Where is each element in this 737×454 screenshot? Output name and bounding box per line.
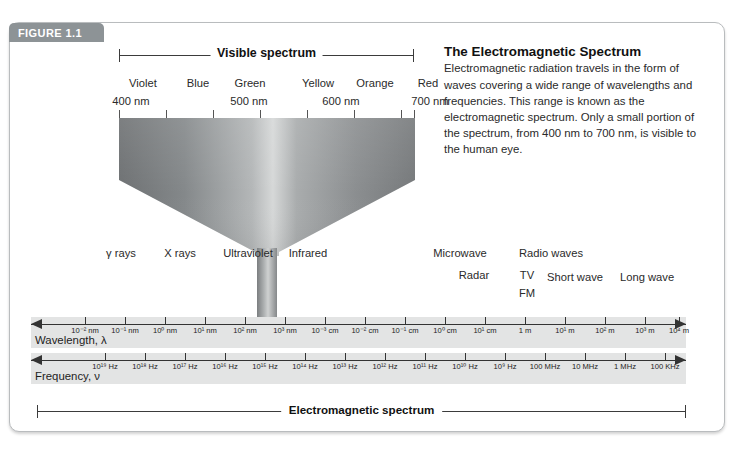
electromagnetic-spectrum-bracket: Electromagnetic spectrum xyxy=(37,404,686,418)
category-label-ultraviolet: Ultraviolet xyxy=(223,247,273,259)
category-label-gamma-rays: γ rays xyxy=(106,247,136,259)
overall-bracket-label: Electromagnetic spectrum xyxy=(281,403,443,416)
visible-spectrum-funnel xyxy=(119,110,415,345)
wavelength-tick-label: 10² m xyxy=(595,326,614,335)
bracket-cap-right xyxy=(413,49,414,62)
wavelength-tick-label: 1 m xyxy=(519,326,532,335)
frequency-tick-label: 100 MHz xyxy=(530,362,560,371)
frequency-tick-label: 10¹⁶ Hz xyxy=(212,362,238,371)
frequency-tick-label: 10¹⁰ Hz xyxy=(452,362,477,371)
funnel-tick xyxy=(401,110,402,118)
wavelength-mark-400nm: 400 nm xyxy=(112,95,149,107)
color-label-orange: Orange xyxy=(356,77,393,89)
frequency-tick-label: 10¹⁷ Hz xyxy=(172,362,197,371)
funnel-tick xyxy=(166,110,167,118)
wavelength-mark-600nm: 600 nm xyxy=(322,95,359,107)
wavelength-tick-label: 10⁻³ cm xyxy=(311,326,338,335)
category-label-infrared: Infrared xyxy=(289,247,328,259)
wavelength-axis: 10⁻² nm 10⁻¹ nm 10⁰ nm 10¹ nm 10² nm 10³… xyxy=(31,317,686,348)
funnel-shape xyxy=(119,118,415,345)
visible-spectrum-label: Visible spectrum xyxy=(210,46,323,60)
overall-bracket-cap-right xyxy=(685,405,686,418)
wavelength-tick-label: 10¹ cm xyxy=(473,326,496,335)
frequency-tick-label: 10¹⁵ Hz xyxy=(252,362,278,371)
category-label-radar: Radar xyxy=(459,269,489,281)
frequency-tick-label: 10⁹ Hz xyxy=(493,362,516,371)
wavelength-mark-700nm: 700 nm xyxy=(411,95,448,107)
frequency-tick-label: 10¹⁸ Hz xyxy=(132,362,158,371)
category-label-long-wave: Long wave xyxy=(620,269,660,285)
color-label-red: Red xyxy=(418,77,439,89)
wavelength-axis-title: Wavelength, λ xyxy=(35,334,107,346)
frequency-axis-title: Frequency, ν xyxy=(35,370,100,382)
category-label-short-wave: Short wave xyxy=(547,269,587,285)
category-label-fm: FM xyxy=(519,287,535,299)
wavelength-tick-label: 10³ nm xyxy=(273,326,297,335)
wavelength-tick-label: 10⁻¹ cm xyxy=(391,326,418,335)
frequency-tick-label: 10¹² Hz xyxy=(373,362,398,371)
frequency-tick-label: 10¹³ Hz xyxy=(333,362,358,371)
frequency-arrow-left-icon xyxy=(31,355,42,365)
visible-spectrum-bracket: Visible spectrum xyxy=(119,49,414,63)
color-label-yellow: Yellow xyxy=(302,77,334,89)
frequency-axis: 10¹⁹ Hz 10¹⁸ Hz 10¹⁷ Hz 10¹⁶ Hz 10¹⁵ Hz … xyxy=(31,353,686,384)
overall-bracket-cap-left xyxy=(37,405,38,418)
wavelength-mark-500nm: 500 nm xyxy=(230,95,267,107)
wavelength-axis-line xyxy=(31,324,686,325)
category-label-microwave: Microwave xyxy=(433,247,486,259)
wavelength-tick-label: 10¹ nm xyxy=(193,326,217,335)
color-label-blue: Blue xyxy=(187,77,209,89)
wavelength-tick-label: 10² nm xyxy=(233,326,257,335)
funnel-tick xyxy=(119,110,120,118)
wavelength-tick-label: 10⁴ m xyxy=(669,326,689,335)
category-label-radio-waves: Radio waves xyxy=(519,247,583,259)
category-label-tv: TV xyxy=(520,269,534,281)
figure-caption: The Electromagnetic Spectrum Electromagn… xyxy=(444,44,706,158)
funnel-tick xyxy=(354,110,355,118)
frequency-tick-label: 1 MHz xyxy=(614,362,636,371)
caption-heading: The Electromagnetic Spectrum xyxy=(444,44,641,59)
frequency-tick-label: 100 KHz xyxy=(650,362,679,371)
wavelength-tick-label: 10¹ m xyxy=(555,326,574,335)
wavelength-tick-label: 10⁰ cm xyxy=(433,326,457,335)
figure-number-label: FIGURE 1.1 xyxy=(18,27,82,39)
funnel-tick xyxy=(307,110,308,118)
funnel-tick xyxy=(213,110,214,118)
color-label-violet: Violet xyxy=(129,77,157,89)
wavelength-arrow-left-icon xyxy=(31,319,42,329)
figure-number-badge: FIGURE 1.1 xyxy=(9,23,104,42)
frequency-tick-label: 10 MHz xyxy=(572,362,598,371)
wavelength-tick-label: 10⁻¹ nm xyxy=(111,326,139,335)
wavelength-tick-label: 10⁰ nm xyxy=(153,326,177,335)
frequency-axis-line xyxy=(31,360,686,361)
category-label-x-rays: X rays xyxy=(164,247,196,259)
color-label-green: Green xyxy=(234,77,265,89)
wavelength-tick-label: 10³ m xyxy=(635,326,654,335)
frequency-tick-label: 10¹⁴ Hz xyxy=(292,362,318,371)
wavelength-tick-label: 10⁻² cm xyxy=(351,326,378,335)
caption-body: Electromagnetic radiation travels in the… xyxy=(444,62,696,155)
funnel-tick-row xyxy=(119,110,415,118)
funnel-tick xyxy=(260,110,261,118)
frequency-tick-label: 10¹¹ Hz xyxy=(413,362,438,371)
funnel-tick xyxy=(414,110,415,118)
bracket-cap-left xyxy=(119,49,120,62)
